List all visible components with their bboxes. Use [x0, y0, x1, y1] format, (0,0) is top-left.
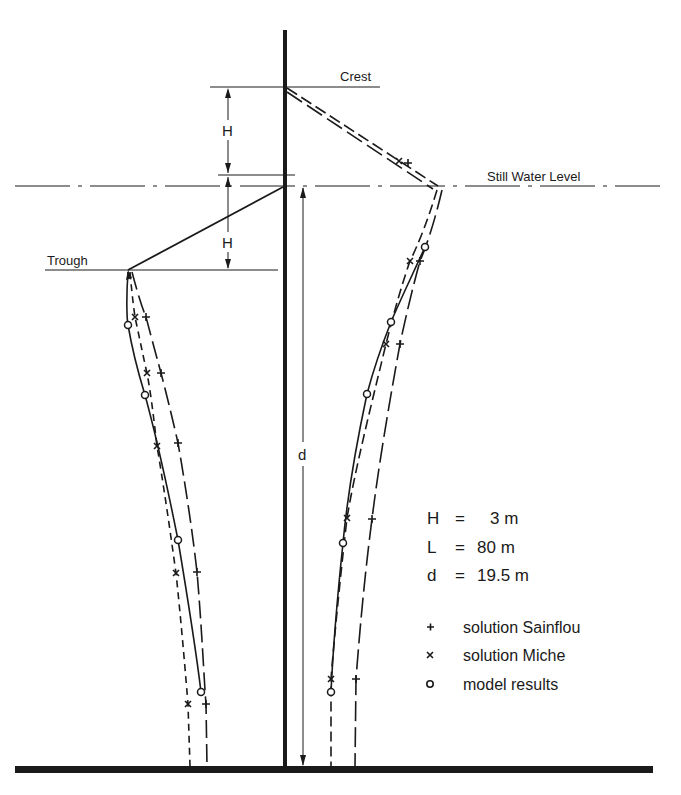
legend-item-sainflou: solution Sainflou	[427, 619, 580, 636]
sainflou-curve-below	[355, 190, 442, 766]
param-L-eq: =	[455, 538, 465, 557]
plus-marker	[142, 313, 150, 321]
circle-marker	[388, 319, 395, 326]
legend: solution Sainflou solution Miche model r…	[427, 619, 581, 693]
cross-marker-icon	[427, 652, 433, 658]
model-curve-crest	[331, 247, 425, 692]
param-L-value: 80 m	[477, 538, 515, 557]
plus-marker	[157, 369, 165, 377]
legend-label-model: model results	[463, 676, 558, 693]
sainflou-curve-trough	[132, 272, 207, 766]
crest-label: Crest	[340, 69, 371, 84]
model-curve-trough	[127, 272, 201, 692]
circle-marker	[198, 689, 205, 696]
param-L-symbol: L	[427, 538, 436, 557]
dimension-H-lower: H	[220, 177, 236, 269]
svg-text:d: d	[298, 446, 306, 463]
svg-text:H: H	[222, 234, 233, 251]
param-H-eq: =	[455, 509, 465, 528]
markers-model-results	[125, 244, 429, 696]
circle-marker	[175, 537, 182, 544]
param-d-symbol: d	[427, 566, 436, 585]
trough-label: Trough	[47, 253, 88, 268]
trough-pressure-profile	[126, 187, 283, 766]
param-d-eq: =	[455, 566, 465, 585]
plus-marker	[202, 700, 210, 708]
legend-label-sainflou: solution Sainflou	[463, 619, 580, 636]
param-H-symbol: H	[427, 509, 439, 528]
circle-marker	[328, 689, 335, 696]
wave-pressure-diagram: Crest Still Water Level Trough H H d	[0, 0, 681, 795]
param-H-value: 3 m	[490, 509, 518, 528]
crest-pressure-profile	[287, 88, 442, 766]
dimension-d: d	[295, 187, 311, 766]
sea-bed	[15, 766, 653, 773]
markers-miche	[132, 158, 413, 707]
still-water-level-label: Still Water Level	[487, 169, 581, 184]
plus-marker	[352, 675, 360, 683]
miche-curve-below	[331, 190, 437, 766]
legend-item-model: model results	[427, 676, 558, 693]
circle-marker	[125, 322, 132, 329]
cross-marker	[383, 341, 389, 347]
miche-curve-crest	[287, 88, 438, 186]
plus-marker	[174, 439, 182, 447]
parameters-block: H = 3 m L = 80 m d = 19.5 m	[427, 509, 529, 585]
svg-text:H: H	[222, 122, 233, 139]
plus-marker	[193, 568, 201, 576]
sainflou-curve-crest	[287, 92, 433, 189]
plus-marker-icon	[427, 624, 434, 631]
circle-marker	[142, 392, 149, 399]
param-d-value: 19.5 m	[477, 566, 529, 585]
circle-marker	[422, 244, 429, 251]
plus-marker	[368, 515, 376, 523]
dimension-H-upper: H	[220, 88, 236, 173]
circle-marker	[340, 540, 347, 547]
miche-curve-trough	[130, 272, 190, 766]
circle-marker	[364, 391, 371, 398]
plus-marker	[396, 340, 404, 348]
legend-item-miche: solution Miche	[427, 647, 565, 664]
cross-marker	[396, 158, 402, 164]
plus-marker	[404, 159, 412, 167]
legend-label-miche: solution Miche	[463, 647, 565, 664]
circle-marker-icon	[427, 681, 433, 687]
